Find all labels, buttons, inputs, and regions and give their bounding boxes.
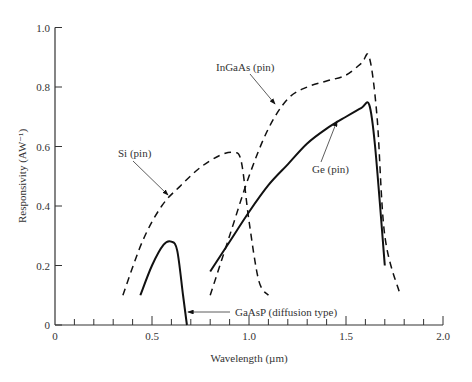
y-tick-label: 0.4 [36, 200, 50, 212]
y-tick-label: 0 [45, 319, 51, 331]
x-tick-label: 1.0 [242, 330, 256, 342]
x-axis-label: Wavelength (µm) [210, 352, 288, 365]
x-tick-label: 1.5 [339, 330, 353, 342]
x-tick-label: 0.5 [145, 330, 159, 342]
y-tick-label: 0.6 [36, 141, 50, 153]
ingaas-pin-curve [210, 54, 400, 295]
gaasp-diffusion-type-curve [140, 241, 187, 325]
y-axis-label: Responsivity (AW⁻¹) [16, 129, 29, 223]
x-tick-label: 0 [52, 330, 58, 342]
curves [123, 54, 400, 325]
ge-pin-curve [210, 102, 385, 271]
y-tick-label: 0.2 [36, 260, 50, 272]
si-pin-curve [123, 152, 269, 295]
annotations: Si (pin)InGaAs (pin)Ge (pin)GaAsP (diffu… [118, 61, 349, 319]
arrow-icon [250, 74, 275, 104]
si-label: Si (pin) [118, 147, 152, 160]
responsivity-chart: 00.20.40.60.81.000.51.01.52.0Wavelength … [0, 0, 472, 382]
ge-label: Ge (pin) [312, 163, 349, 176]
x-tick-label: 2.0 [436, 330, 450, 342]
y-tick-label: 0.8 [36, 81, 50, 93]
gaasp-label: GaAsP (diffusion type) [235, 306, 337, 319]
ingaas-label: InGaAs (pin) [216, 61, 275, 74]
axes: 00.20.40.60.81.000.51.01.52.0Wavelength … [16, 22, 450, 366]
arrow-icon [133, 161, 168, 195]
y-tick-label: 1.0 [36, 22, 50, 34]
